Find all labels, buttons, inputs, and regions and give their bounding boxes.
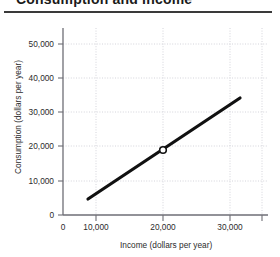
figure-container: Consumption and income xyxy=(0,0,280,257)
y-tick-label-20000: 20,000 xyxy=(2,141,54,151)
y-tick-label-10000: 10,000 xyxy=(2,176,54,186)
y-axis-ticks xyxy=(58,44,63,215)
y-tick-label-50000: 50,000 xyxy=(2,39,54,49)
x-tick-label-30000: 30,000 xyxy=(205,222,255,232)
x-tick-label-10000: 10,000 xyxy=(71,222,121,232)
grid-vertical xyxy=(96,28,262,215)
y-axis-title: Consumption (dollars per year) xyxy=(13,32,23,202)
x-tick-label-20000: 20,000 xyxy=(138,222,188,232)
marker-point-a xyxy=(160,147,167,154)
y-tick-label-0: 0 xyxy=(2,210,54,220)
grid-horizontal xyxy=(63,44,268,181)
x-axis-title: Income (dollars per year) xyxy=(120,240,212,250)
y-tick-label-40000: 40,000 xyxy=(2,73,54,83)
y-tick-label-30000: 30,000 xyxy=(2,107,54,117)
x-axis-ticks xyxy=(96,215,262,221)
